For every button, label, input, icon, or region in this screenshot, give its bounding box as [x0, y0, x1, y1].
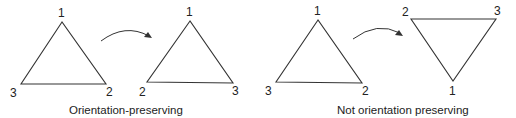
orientation-diagram: 1 3 2 1 2 3 Orientation-preserving 1 3 2 [0, 0, 516, 118]
triangle-shape [147, 21, 233, 83]
triangle-shape [411, 19, 496, 81]
vertex-label-bottom-right: 3 [232, 84, 239, 98]
curved-arrow-icon [353, 28, 403, 39]
triangle-before-2: 1 3 2 [265, 4, 369, 98]
vertex-label-top: 1 [58, 6, 65, 20]
triangle-after-2: 2 3 1 [402, 4, 501, 98]
vertex-label-bottom-left: 3 [265, 84, 272, 98]
vertex-label-bottom-left: 2 [139, 85, 146, 99]
caption-orientation-preserving: Orientation-preserving [69, 104, 183, 116]
panel-not-orientation-preserving: 1 3 2 2 3 1 Not orientation preserving [265, 4, 501, 116]
vertex-label-bottom-right: 2 [362, 84, 369, 98]
vertex-label-top-left: 2 [402, 5, 409, 19]
curved-arrow-icon [101, 31, 152, 41]
triangle-shape [21, 22, 106, 84]
caption-not-orientation-preserving: Not orientation preserving [337, 104, 469, 116]
vertex-label-top: 1 [186, 5, 193, 19]
vertex-label-top-right: 3 [494, 4, 501, 18]
triangle-shape [276, 20, 362, 83]
vertex-label-bottom-right: 2 [106, 85, 113, 99]
panel-orientation-preserving: 1 3 2 1 2 3 Orientation-preserving [10, 5, 239, 116]
vertex-label-bottom-left: 3 [10, 86, 17, 100]
vertex-label-bottom: 1 [449, 84, 456, 98]
vertex-label-top: 1 [314, 4, 321, 18]
triangle-after-1: 1 2 3 [139, 5, 239, 99]
triangle-before-1: 1 3 2 [10, 6, 113, 100]
